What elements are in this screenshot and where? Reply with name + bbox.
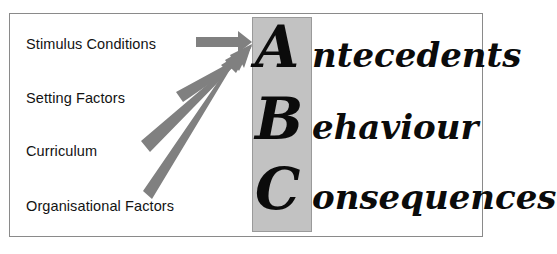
abc-word-antecedents: ntecedents	[312, 38, 521, 72]
abc-row-consequences: C onsequences	[252, 160, 557, 232]
arrow-organisational-factors	[143, 46, 252, 199]
abc-row-antecedents: A ntecedents	[252, 18, 521, 90]
abc-row-behaviour: B ehaviour	[252, 90, 478, 162]
abc-word-consequences: onsequences	[312, 180, 557, 214]
abc-initial-a: A	[252, 18, 310, 75]
input-label-setting-factors: Setting Factors	[26, 91, 125, 106]
input-label-curriculum: Curriculum	[26, 144, 97, 159]
input-label-organisational-factors: Organisational Factors	[26, 199, 174, 214]
input-label-stimulus-conditions: Stimulus Conditions	[26, 37, 156, 52]
abc-word-behaviour: ehaviour	[312, 110, 478, 144]
abc-initial-b: B	[252, 90, 310, 147]
abc-initial-c: C	[252, 160, 310, 217]
